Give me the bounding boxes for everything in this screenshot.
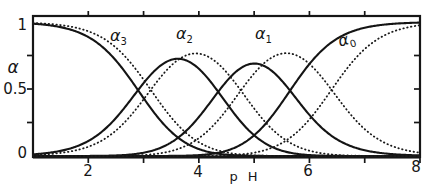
plot-border	[33, 16, 420, 157]
curve-label-alpha1-base: α	[255, 24, 266, 43]
x-axis-label: p H	[229, 169, 260, 184]
y-tick-label-0: 0	[17, 144, 27, 162]
alpha-distribution-chart: 1 0.5 0 α 2 4 6 8 p H α3 α2 α1 α0	[0, 0, 431, 191]
x-tick-label-6: 6	[303, 162, 313, 180]
curve-label-alpha3: α3	[110, 26, 127, 47]
curve-label-alpha2-base: α	[176, 24, 187, 43]
curve-solid-alpha0	[33, 23, 420, 156]
curve-dotted-alpha3	[33, 23, 420, 156]
alpha-distribution-figure: 1 0.5 0 α 2 4 6 8 p H α3 α2 α1 α0	[0, 0, 431, 191]
y-tick-label-1: 1	[17, 16, 27, 34]
tick-marks	[27, 11, 420, 163]
curve-solid-alpha1	[33, 64, 420, 156]
curve-label-alpha2-sub: 2	[187, 34, 193, 45]
curve-solid-alpha2	[33, 59, 420, 156]
x-tick-label-8: 8	[411, 158, 421, 176]
curve-label-alpha1: α1	[255, 24, 272, 45]
curve-solid-alpha3	[33, 24, 420, 156]
curves	[33, 23, 420, 156]
curve-label-alpha3-base: α	[110, 26, 121, 45]
curve-label-alpha2: α2	[176, 24, 193, 45]
x-tick-label-2: 2	[83, 162, 93, 180]
y-axis-label: α	[7, 57, 18, 77]
curve-label-alpha3-sub: 3	[121, 36, 127, 47]
y-tick-label-0-5: 0.5	[3, 80, 27, 98]
curve-dotted-alpha0	[33, 25, 420, 156]
x-tick-label-4: 4	[193, 163, 203, 181]
curve-label-alpha1-sub: 1	[266, 34, 272, 45]
